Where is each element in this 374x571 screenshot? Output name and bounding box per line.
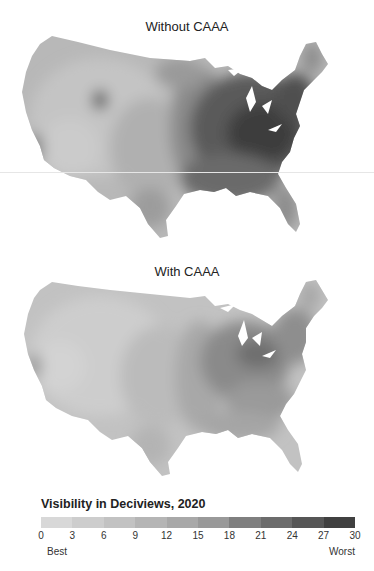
legend-tick: 24 (287, 530, 298, 541)
legend-swatch-5 (198, 517, 229, 528)
legend-tick: 6 (101, 530, 107, 541)
legend-swatch-7 (261, 517, 292, 528)
legend-swatch-2 (104, 517, 135, 528)
legend-swatch-9 (324, 517, 355, 528)
legend-tick: 0 (38, 530, 44, 541)
legend-tick: 30 (349, 530, 360, 541)
legend-swatch-0 (41, 517, 72, 528)
legend-best-label: Best (47, 546, 67, 557)
legend-swatch-1 (72, 517, 103, 528)
map-with-caaa (0, 276, 374, 486)
legend-tick: 15 (192, 530, 203, 541)
legend-swatch-3 (135, 517, 166, 528)
legend-swatch-8 (292, 517, 323, 528)
legend-tick: 12 (161, 530, 172, 541)
legend-tick: 21 (255, 530, 266, 541)
legend-swatch-6 (229, 517, 260, 528)
legend-tick: 3 (70, 530, 76, 541)
legend-tick: 27 (318, 530, 329, 541)
legend-tick: 18 (224, 530, 235, 541)
map-without-caaa (0, 28, 374, 263)
legend-worst-label: Worst (329, 546, 355, 557)
legend-title: Visibility in Deciviews, 2020 (41, 497, 205, 511)
legend-color-bar (41, 517, 355, 528)
legend-swatch-4 (167, 517, 198, 528)
divider-line (0, 172, 374, 173)
legend-tick: 9 (132, 530, 138, 541)
